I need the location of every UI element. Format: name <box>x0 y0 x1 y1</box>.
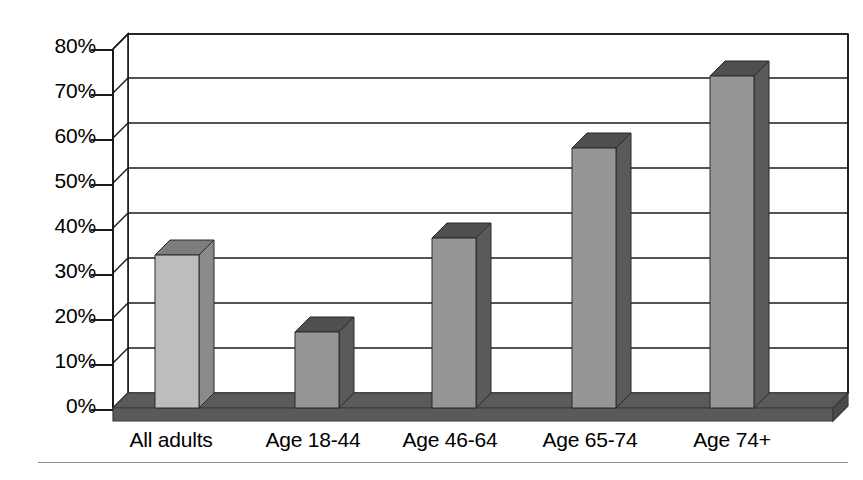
y-tick-label-40: 40% <box>10 214 96 238</box>
y-leader-40 <box>91 229 113 231</box>
y-tick-label-10: 10% <box>10 349 96 373</box>
y-leader-20 <box>91 319 113 321</box>
bar-side-1 <box>339 317 354 408</box>
y-tick-label-80: 80% <box>10 34 96 58</box>
bottom-divider-rule <box>38 462 848 463</box>
y-leader-0 <box>91 409 113 411</box>
bar-group-0[interactable] <box>155 240 214 408</box>
y-leader-30 <box>91 274 113 276</box>
y-tick-label-0: 0% <box>10 394 96 418</box>
y-leader-60 <box>91 139 113 141</box>
bar-front-3 <box>572 148 616 408</box>
floor-front-edge <box>113 408 833 421</box>
bar-front-2 <box>432 238 476 408</box>
y-leader-50 <box>91 184 113 186</box>
y-tick-label-70: 70% <box>10 79 96 103</box>
bar-side-0 <box>199 240 214 408</box>
x-tick-label-age-46-64: Age 46-64 <box>385 428 515 452</box>
bar-group-4[interactable] <box>710 61 769 408</box>
y-leader-70 <box>91 94 113 96</box>
bar-group-3[interactable] <box>572 133 631 408</box>
bar-side-3 <box>616 133 631 408</box>
y-tick-label-60: 60% <box>10 124 96 148</box>
y-axis-ticks: 80% 70% 60% 50% 40% 30% 20% 10% 0% <box>0 0 96 480</box>
x-tick-label-all-adults: All adults <box>106 428 236 452</box>
plot-canvas <box>0 0 863 480</box>
bar-group-2[interactable] <box>432 223 491 408</box>
bar-side-4 <box>754 61 769 408</box>
chart-figure: 80% 70% 60% 50% 40% 30% 20% 10% 0% All a… <box>0 0 863 480</box>
x-tick-label-age-74plus: Age 74+ <box>667 428 797 452</box>
x-tick-label-age-18-44: Age 18-44 <box>248 428 378 452</box>
y-leader-80 <box>91 49 113 51</box>
y-leader-10 <box>91 364 113 366</box>
x-tick-label-age-65-74: Age 65-74 <box>525 428 655 452</box>
figure-frame: 80% 70% 60% 50% 40% 30% 20% 10% 0% All a… <box>0 0 863 480</box>
bar-front-0 <box>155 255 199 408</box>
y-tick-label-30: 30% <box>10 259 96 283</box>
y-tick-label-50: 50% <box>10 169 96 193</box>
bar-side-2 <box>476 223 491 408</box>
y-tick-label-20: 20% <box>10 304 96 328</box>
bar-front-1 <box>295 332 339 408</box>
bar-group-1[interactable] <box>295 317 354 408</box>
bar-front-4 <box>710 76 754 408</box>
